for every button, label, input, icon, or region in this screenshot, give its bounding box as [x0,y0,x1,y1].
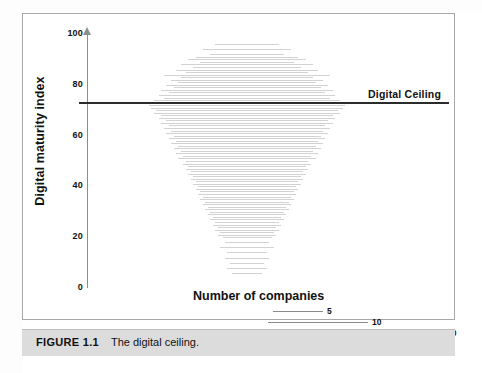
bar-row [166,133,328,134]
bar-row [181,64,313,65]
bar-row [200,199,293,200]
bar-row [171,143,323,144]
bar-row [154,113,340,114]
bar-row [174,148,321,149]
bar-row [196,181,299,182]
digital-ceiling-line [79,102,449,104]
bar-row [188,59,306,60]
figure-caption: FIGURE 1.1The digital ceiling. [36,336,199,348]
bar-row [186,169,309,170]
bar-row [178,146,315,147]
bar-row [227,268,266,269]
bar-row [178,158,315,159]
bar-row [159,118,335,119]
bar-row [215,44,279,45]
bar-row [210,54,284,55]
bar-row [161,123,333,124]
digital-ceiling-label: Digital Ceiling [368,88,441,100]
bar-row [193,184,301,185]
bar-row [210,219,284,220]
figure-caption-label: FIGURE 1.1 [36,336,99,348]
bar-row [213,225,282,226]
bar-row [203,204,291,205]
bar-row [161,90,333,91]
bar-row [200,191,293,192]
bar-row [164,128,331,129]
bar-row [205,209,288,210]
bar-row [183,164,310,165]
legend-value-label: 5 [327,306,332,316]
bar-row [171,80,323,81]
legend-entry-5: 5 [23,306,456,316]
bar-row [196,57,299,58]
bar-row [227,252,266,253]
bar-row [225,258,269,259]
bar-row [198,194,296,195]
figure-caption-text: The digital ceiling. [111,336,199,348]
bar-row [208,214,286,215]
bar-row [176,141,318,142]
bar-row [166,85,328,86]
bar-row [166,120,328,121]
page-margin-left [0,0,22,373]
x-axis-title: Number of companies [193,289,324,303]
figure-frame: 020406080100 Digital maturity index Digi… [22,13,455,320]
bar-row [203,49,291,50]
bar-row [159,95,335,96]
bar-row [215,230,279,231]
bar-row [174,87,321,88]
bar-row [218,227,277,228]
legend-scale-line [273,311,323,312]
bar-row [174,136,321,137]
bar-row [203,197,291,198]
bar-row [176,153,318,154]
bar-row [188,166,306,167]
bar-row [178,82,315,83]
legend-scale-line [268,322,368,323]
bar-row [196,189,299,190]
bar-row [220,232,274,233]
bar-row [181,77,313,78]
bar-row [210,212,284,213]
bar-row [183,156,310,157]
bar-row [186,161,309,162]
bar-row [230,263,264,264]
page-margin-top [0,0,482,12]
bar-row [193,67,301,68]
bar-row [213,217,282,218]
bar-row [208,207,286,208]
bar-row [156,110,337,111]
bar-row [220,247,274,248]
bar-row [218,235,277,236]
bar-row [198,186,296,187]
bar-row [164,98,331,99]
bar-row [188,174,306,175]
legend-value-label: 10 [372,317,381,327]
bar-row [169,138,326,139]
bar-row [223,237,272,238]
bar-row [164,75,331,76]
legend-entry-10: 10 [23,317,456,327]
bar-row [200,62,293,63]
figure-caption-band: FIGURE 1.1The digital ceiling. [22,329,455,356]
chart-plot-area: 020406080100 Digital maturity index Digi… [23,14,456,321]
bar-row [169,125,326,126]
bar-series [23,14,456,321]
bar-row [161,115,333,116]
bar-row [176,70,318,71]
bar-row [215,222,279,223]
bar-row [181,151,313,152]
bar-row [151,108,342,109]
bar-row [193,176,301,177]
bar-row [186,72,309,73]
bar-row [191,171,304,172]
bar-row [232,273,261,274]
bar-row [169,92,326,93]
bar-row [149,105,345,106]
bar-row [191,179,304,180]
bar-row [154,100,340,101]
bar-row [205,202,288,203]
bar-row [225,242,269,243]
bar-row [171,131,323,132]
